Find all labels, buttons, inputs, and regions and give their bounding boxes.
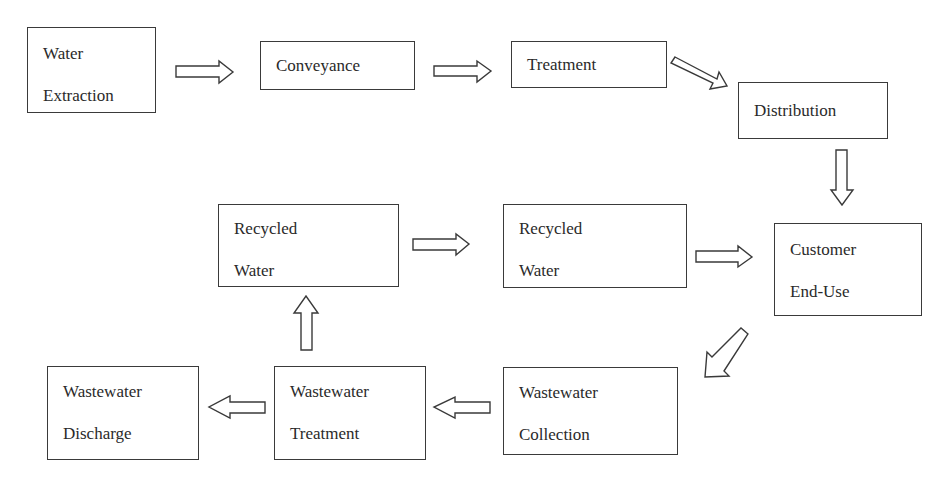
arrow-down-left-icon	[705, 328, 748, 377]
arrow-right-icon	[0, 0, 948, 485]
arrow-right-icon	[696, 246, 752, 267]
arrow-left-icon	[434, 397, 490, 418]
arrow-down-icon	[831, 150, 853, 205]
arrow-right-icon	[434, 61, 491, 82]
arrow-up-icon	[294, 296, 318, 350]
arrow-down-right-icon	[671, 57, 727, 89]
arrow-right-icon	[413, 234, 469, 255]
arrow-left-icon	[209, 396, 265, 418]
arrow-right-icon	[176, 61, 233, 83]
